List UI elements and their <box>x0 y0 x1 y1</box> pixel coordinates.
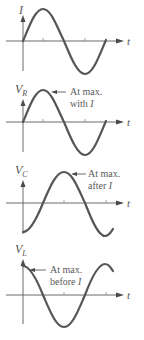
panel-capacitor-voltage: VC At max. after I t <box>0 162 144 242</box>
t-axis-label: t <box>127 36 130 47</box>
y-axis-label: I <box>19 4 23 16</box>
y-axis-label: VC <box>15 164 28 179</box>
annotation-text: At max. with I <box>70 86 102 110</box>
annotation-text: At max. after I <box>88 168 120 192</box>
annotation-arrow-icon <box>71 172 77 176</box>
annotation-text: At max. before I <box>50 264 82 288</box>
y-axis-arrow-icon <box>21 180 26 187</box>
t-axis-arrow-icon <box>116 293 124 298</box>
y-axis-label: VL <box>15 243 27 258</box>
t-axis-label: t <box>127 117 130 128</box>
annotation-arrow-icon <box>51 90 57 94</box>
t-axis-arrow-icon <box>116 39 124 44</box>
y-axis-label: VR <box>15 83 27 98</box>
phase-diagram-figure: I t VR At max. with I t <box>0 0 144 340</box>
t-axis-label: t <box>127 198 130 209</box>
t-axis-arrow-icon <box>116 120 124 125</box>
panel-current: I t <box>0 0 144 80</box>
panel-inductor-voltage: VL At max. before I t <box>0 242 144 340</box>
y-axis-arrow-icon <box>21 99 26 106</box>
panel-resistor-voltage: VR At max. with I t <box>0 80 144 162</box>
t-axis-arrow-icon <box>116 201 124 206</box>
t-axis-label: t <box>127 290 130 301</box>
